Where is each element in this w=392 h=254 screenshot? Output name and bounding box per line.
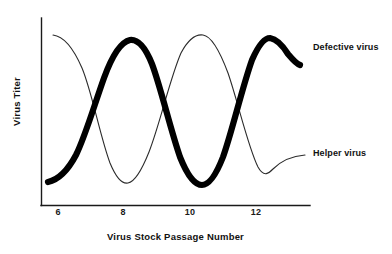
series-label-helper-virus: Helper virus [313,148,366,158]
series-label-defective-virus: Defective virus [313,42,379,52]
y-axis-title: Virus Titer [11,67,22,137]
x-tick-label-8: 8 [111,207,135,217]
x-tick-label-12: 12 [244,207,268,217]
x-axis-title: Virus Stock Passage Number [41,231,310,242]
defective-virus-curve [48,38,300,185]
chart-container: 6 8 10 12 Defective virus Helper virus V… [0,0,392,254]
x-tick-label-10: 10 [178,207,202,217]
x-tick-label-6: 6 [46,207,70,217]
